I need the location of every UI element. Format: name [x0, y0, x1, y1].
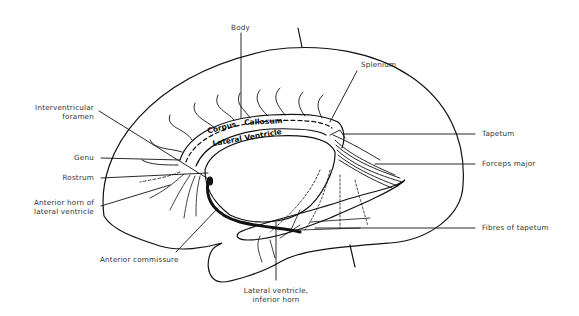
- label-splenium: Splenium: [361, 61, 396, 70]
- label-anterior-commissure: Anterior commissure: [100, 256, 179, 265]
- label-tapetum: Tapetum: [482, 130, 514, 139]
- inferior-horn: [237, 180, 405, 240]
- leader-lines: [99, 33, 475, 280]
- tick-top: [298, 28, 302, 47]
- label-fibres-of-tapetum: Fibres of tapetum: [482, 224, 549, 233]
- label-forceps-major: Forceps major: [482, 160, 535, 169]
- tick-bottom: [350, 245, 355, 267]
- label-inferior-horn: Lateral ventricle, inferior horn: [236, 287, 316, 304]
- forceps-fibres: [330, 130, 402, 188]
- genu-fibres: [140, 172, 200, 218]
- label-body: Body: [231, 24, 250, 33]
- hemisphere-outline: [103, 48, 463, 282]
- label-genu: Genu: [50, 154, 94, 163]
- label-anterior-horn: Anterior horn of lateral ventricle: [14, 199, 94, 216]
- label-rostrum: Rostrum: [40, 174, 94, 183]
- label-interventricular-foramen: Interventricular foramen: [26, 104, 94, 121]
